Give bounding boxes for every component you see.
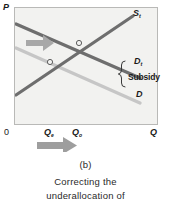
figure-caption: (b) Correcting the underallocation of — [0, 158, 171, 202]
optimal-point-marker — [76, 40, 81, 45]
x-axis-label: Q — [150, 128, 157, 137]
demand-subsidized-curve-label: Dt — [134, 57, 142, 66]
chart-area: P Q 0 Qe Qo St Dt D Subsidy — [0, 0, 171, 152]
y-axis-label: P — [3, 3, 9, 12]
supply-curve-label: St — [133, 9, 141, 18]
caption-line-2: underallocation of — [0, 189, 171, 202]
equilibrium-point-marker — [47, 59, 52, 64]
x-tick-qo: Qo — [72, 128, 82, 137]
panel-id: (b) — [0, 158, 171, 172]
demand-curve-label: D — [136, 90, 143, 99]
caption-line-1: Correcting the — [0, 175, 171, 189]
subsidy-label: Subsidy — [128, 73, 160, 82]
subsidy-brace-icon — [118, 61, 125, 87]
x-tick-qe: Qe — [44, 128, 54, 137]
figure-panel: P Q 0 Qe Qo St Dt D Subsidy (b) Correcti… — [0, 0, 171, 202]
origin-label: 0 — [4, 128, 9, 137]
